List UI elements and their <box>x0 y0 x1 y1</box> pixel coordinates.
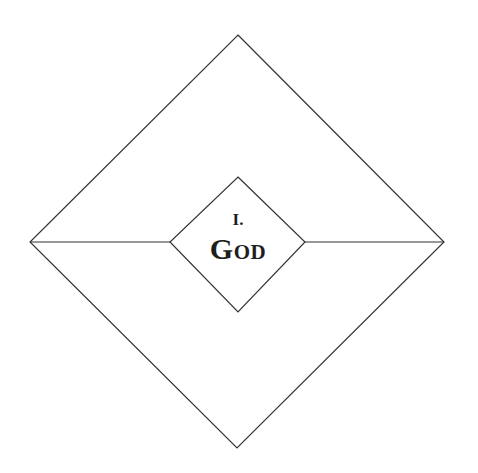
center-label: I. God <box>188 200 288 266</box>
section-title: God <box>188 232 288 266</box>
section-numeral: I. <box>188 210 288 230</box>
